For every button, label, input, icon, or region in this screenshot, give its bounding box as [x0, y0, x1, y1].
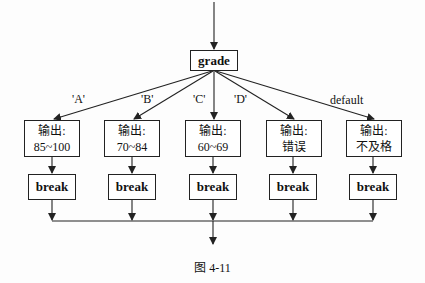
output-value: 不及格 — [356, 139, 392, 155]
switch-flowchart: grade 'A' 'B' 'C' 'D' default 输出: 85~100… — [0, 0, 425, 283]
break-box-d: break — [269, 174, 317, 200]
case-label-default: default — [330, 93, 363, 108]
break-label: break — [197, 179, 229, 195]
case-label-d: 'D' — [234, 92, 247, 107]
output-prefix: 输出: — [280, 123, 307, 139]
output-box-d: 输出: 错误 — [266, 120, 322, 157]
output-box-a: 输出: 85~100 — [24, 120, 80, 157]
break-box-a: break — [28, 174, 76, 200]
output-box-b: 输出: 70~84 — [104, 120, 160, 157]
output-value: 70~84 — [117, 139, 148, 155]
output-box-c: 输出: 60~69 — [185, 120, 241, 157]
case-label-b: 'B' — [141, 92, 153, 107]
output-prefix: 输出: — [199, 123, 226, 139]
switch-node-grade: grade — [190, 50, 238, 71]
case-label-a: 'A' — [72, 92, 85, 107]
switch-node-label: grade — [198, 53, 230, 69]
output-prefix: 输出: — [118, 123, 145, 139]
break-box-b: break — [108, 174, 156, 200]
figure-caption: 图 4-11 — [0, 258, 425, 276]
output-value: 85~100 — [34, 139, 71, 155]
break-box-c: break — [189, 174, 237, 200]
break-label: break — [116, 179, 148, 195]
output-prefix: 输出: — [38, 123, 65, 139]
output-prefix: 输出: — [360, 123, 387, 139]
break-label: break — [277, 179, 309, 195]
output-box-default: 输出: 不及格 — [346, 120, 402, 157]
output-value: 错误 — [282, 139, 306, 155]
output-value: 60~69 — [198, 139, 229, 155]
break-label: break — [357, 179, 389, 195]
case-label-c: 'C' — [193, 92, 205, 107]
break-label: break — [36, 179, 68, 195]
break-box-default: break — [349, 174, 397, 200]
